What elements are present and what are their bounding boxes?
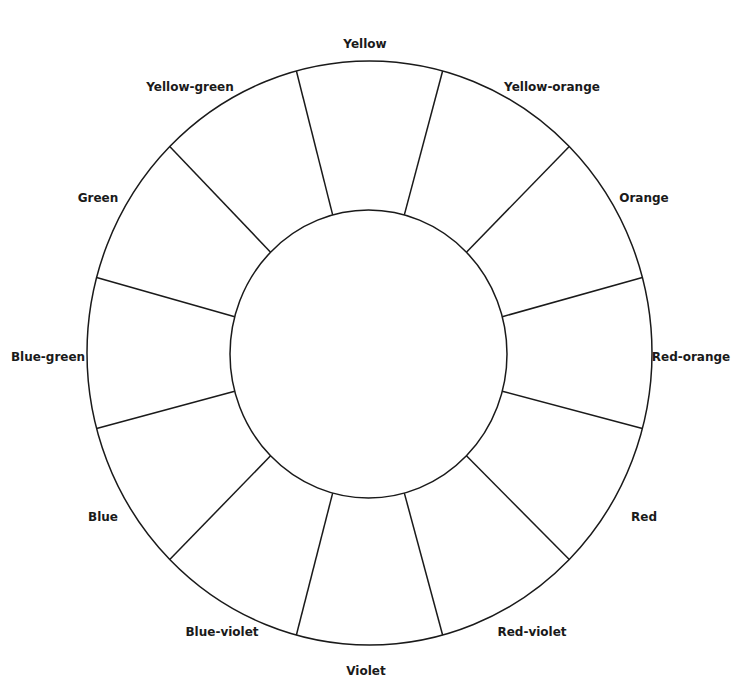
segment-divider: [296, 71, 332, 215]
segment-divider: [170, 456, 271, 560]
segment-divider: [97, 277, 235, 316]
segment-divider: [466, 456, 569, 560]
label-red: Red: [631, 510, 657, 524]
label-blue-violet: Blue-violet: [185, 625, 258, 639]
segment-dividers: [97, 71, 643, 635]
segment-divider: [296, 493, 332, 635]
label-red-violet: Red-violet: [497, 625, 566, 639]
inner-circle: [230, 210, 507, 498]
label-yellow: Yellow: [342, 37, 386, 51]
label-orange: Orange: [619, 191, 669, 205]
label-blue-green: Blue-green: [11, 350, 85, 364]
color-wheel: Yellow Yellow-orange Orange Red-orange R…: [0, 0, 737, 700]
segment-divider: [97, 391, 235, 428]
label-green: Green: [78, 191, 119, 205]
segment-divider: [466, 147, 569, 253]
segment-divider: [404, 71, 442, 215]
label-yellow-orange: Yellow-orange: [503, 80, 600, 94]
label-blue: Blue: [88, 510, 118, 524]
label-red-orange: Red-orange: [652, 350, 730, 364]
segment-divider: [404, 493, 442, 635]
label-yellow-green: Yellow-green: [145, 80, 234, 94]
segment-divider: [170, 147, 271, 253]
segment-divider: [502, 391, 642, 428]
label-violet: Violet: [346, 664, 386, 678]
segment-divider: [502, 277, 642, 316]
